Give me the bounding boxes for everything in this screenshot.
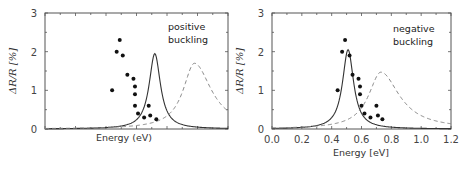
data-point	[357, 77, 361, 81]
data-point	[348, 54, 352, 58]
dashed-curve	[45, 63, 228, 128]
data-point	[110, 88, 114, 92]
x-tick-label: 0.2	[294, 134, 310, 145]
data-point	[362, 112, 366, 116]
data-point	[125, 73, 129, 77]
panel-negative-buckling: 01230.00.20.40.60.81.01.2Energy [eV]ΔR/R…	[234, 8, 459, 158]
x-tick-label: 0.0	[264, 134, 280, 145]
data-point	[358, 92, 362, 96]
data-point	[351, 73, 355, 77]
data-point	[154, 117, 158, 121]
data-point	[115, 50, 119, 54]
y-tick-label: 2	[258, 47, 264, 58]
data-point	[360, 104, 364, 108]
data-point	[121, 54, 125, 58]
data-point	[340, 50, 344, 54]
y-tick-label: 3	[258, 8, 264, 19]
data-point	[368, 115, 372, 119]
panel-positive-buckling: 0123Energy (eV)ΔR/R [%]positivebuckling	[7, 8, 228, 143]
data-point	[343, 38, 347, 42]
figure: 0123Energy (eV)ΔR/R [%]positivebuckling …	[0, 0, 468, 171]
data-point	[136, 112, 140, 116]
annotation-text: buckling	[393, 36, 433, 47]
data-point	[142, 115, 146, 119]
annotation-text: negative	[393, 23, 435, 34]
x-axis-label: Energy (eV)	[96, 132, 152, 143]
data-point	[133, 104, 137, 108]
data-point	[376, 113, 380, 117]
y-tick-label: 0	[258, 124, 264, 135]
solid-curve	[45, 54, 228, 129]
data-point	[133, 84, 137, 88]
y-tick-label: 1	[31, 85, 37, 96]
y-tick-label: 0	[31, 124, 37, 135]
annotation-text: positive	[168, 21, 205, 32]
data-point	[380, 117, 384, 121]
data-point	[118, 38, 122, 42]
x-tick-label: 0.6	[354, 134, 370, 145]
y-tick-label: 2	[31, 47, 37, 58]
data-point	[358, 84, 362, 88]
data-point	[336, 88, 340, 92]
data-point	[147, 104, 151, 108]
y-axis-label: ΔR/R [%]	[234, 48, 245, 95]
x-tick-label: 0.8	[383, 134, 399, 145]
y-axis-label: ΔR/R [%]	[7, 48, 18, 95]
y-tick-label: 1	[258, 85, 264, 96]
x-axis-label: Energy [eV]	[333, 147, 389, 158]
data-point	[131, 77, 135, 81]
x-tick-label: 1.0	[413, 134, 429, 145]
data-point	[374, 104, 378, 108]
dashed-curve	[272, 72, 451, 128]
x-tick-label: 1.2	[443, 134, 459, 145]
data-point	[148, 113, 152, 117]
y-tick-label: 3	[31, 8, 37, 19]
annotation-text: buckling	[168, 34, 208, 45]
data-point	[133, 92, 137, 96]
x-tick-label: 0.4	[324, 134, 340, 145]
